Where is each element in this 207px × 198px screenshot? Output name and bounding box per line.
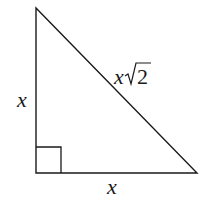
left-leg-label: x	[16, 87, 27, 112]
right-angle-marker	[36, 147, 61, 173]
hypotenuse-label: x 2	[113, 63, 151, 89]
triangle-diagram: x x x 2	[0, 0, 207, 198]
triangle	[36, 8, 197, 173]
bottom-leg-label: x	[106, 174, 117, 198]
svg-text:x: x	[113, 64, 124, 89]
svg-text:2: 2	[137, 64, 148, 89]
